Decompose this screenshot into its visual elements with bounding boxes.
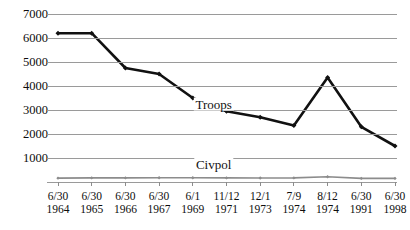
x-tick-label-date: 6/30 [351,190,371,202]
x-tick-label-year: 1967 [148,203,171,216]
x-tick-label: 6/301964 [47,190,70,215]
x-tick-label: 6/301991 [350,190,373,215]
x-tick-label: 6/11969 [181,190,204,215]
x-tick-mark [58,182,59,186]
x-tick-label-year: 1971 [214,203,240,216]
x-tick-label-date: 6/1 [185,190,200,202]
x-tick-label: 6/301966 [114,190,137,215]
x-tick-label-year: 1973 [249,203,272,216]
x-tick-label-year: 1974 [282,203,305,216]
x-tick-mark [260,182,261,186]
x-tick-label-date: 7/9 [287,190,302,202]
x-tick-label-date: 6/30 [385,190,405,202]
x-tick-label-date: 11/12 [214,190,240,202]
x-tick-label-year: 1965 [80,203,103,216]
x-tick-mark [293,182,294,186]
x-tick-label-year: 1998 [384,203,407,216]
x-tick-mark [159,182,160,186]
x-tick-label-date: 6/30 [115,190,135,202]
x-tick-label-date: 6/30 [81,190,101,202]
x-tick-label: 12/11973 [249,190,272,215]
x-tick-label: 7/91974 [282,190,305,215]
x-tick-mark [91,182,92,186]
x-axis-tick-labels: 6/3019646/3019656/3019666/3019676/119691… [0,0,410,230]
x-tick-mark [226,182,227,186]
x-tick-mark [125,182,126,186]
x-tick-label-date: 12/1 [250,190,270,202]
x-tick-label: 6/301967 [148,190,171,215]
x-tick-label: 11/121971 [214,190,240,215]
x-tick-label-year: 1964 [47,203,70,216]
x-tick-label-date: 8/12 [317,190,337,202]
x-tick-label-date: 6/30 [48,190,68,202]
x-tick-label-year: 1966 [114,203,137,216]
line-chart: 7000600050004000300020001000 TroopsCivpo… [0,0,410,230]
x-tick-mark [361,182,362,186]
x-tick-label-year: 1991 [350,203,373,216]
x-tick-mark [327,182,328,186]
x-tick-label: 6/301965 [80,190,103,215]
x-tick-label: 6/301998 [384,190,407,215]
x-tick-mark [192,182,193,186]
x-tick-label-date: 6/30 [149,190,169,202]
x-tick-label: 8/121974 [316,190,339,215]
x-tick-mark [395,182,396,186]
x-tick-label-year: 1969 [181,203,204,216]
x-tick-label-year: 1974 [316,203,339,216]
